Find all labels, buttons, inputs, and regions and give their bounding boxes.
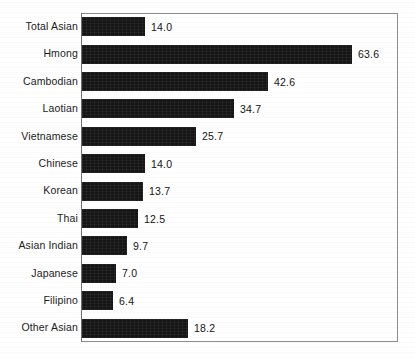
bar-wrapper: 6.4 [82, 287, 134, 314]
bar-row: Korean 13.7 [0, 177, 415, 204]
bar-value-label: 42.6 [274, 76, 295, 88]
bar-rect [82, 291, 113, 310]
bar-rect [82, 209, 138, 228]
bar-row: Thai 12.5 [0, 205, 415, 232]
bar-rect [82, 17, 145, 36]
bar-rect [82, 45, 352, 64]
bar-value-label: 14.0 [151, 158, 172, 170]
bar-value-label: 25.7 [202, 130, 223, 142]
bar-row: Other Asian 18.2 [0, 314, 415, 341]
bar-value-label: 14.0 [151, 21, 172, 33]
bar-wrapper: 9.7 [82, 232, 148, 259]
category-label: Thai [57, 205, 78, 232]
bar-rect [82, 236, 127, 255]
bar-rows: Total Asian 14.0 Hmong 63.6 Cambodian 42… [0, 13, 415, 342]
bar-wrapper: 63.6 [82, 40, 379, 67]
bar-chart: Total Asian 14.0 Hmong 63.6 Cambodian 42… [0, 0, 415, 358]
bar-rect [82, 319, 188, 338]
bar-wrapper: 14.0 [82, 13, 172, 40]
category-label: Laotian [43, 95, 79, 122]
bar-row: Asian Indian 9.7 [0, 232, 415, 259]
bar-wrapper: 25.7 [82, 123, 223, 150]
bar-row: Laotian 34.7 [0, 95, 415, 122]
category-label: Korean [43, 177, 78, 204]
bar-rect [82, 127, 196, 146]
category-label: Cambodian [23, 68, 78, 95]
bar-value-label: 34.7 [240, 103, 261, 115]
bar-value-label: 13.7 [149, 185, 170, 197]
bar-value-label: 7.0 [122, 267, 137, 279]
bar-rect [82, 99, 234, 118]
bar-wrapper: 12.5 [82, 205, 165, 232]
bar-rect [82, 72, 268, 91]
bar-row: Filipino 6.4 [0, 287, 415, 314]
bar-rect [82, 182, 143, 201]
bar-row: Japanese 7.0 [0, 260, 415, 287]
category-label: Vietnamese [21, 123, 78, 150]
bar-wrapper: 14.0 [82, 150, 172, 177]
bar-row: Chinese 14.0 [0, 150, 415, 177]
category-label: Filipino [44, 287, 78, 314]
bar-row: Vietnamese 25.7 [0, 123, 415, 150]
category-label: Hmong [43, 40, 78, 67]
bar-value-label: 63.6 [358, 48, 379, 60]
category-label: Japanese [31, 260, 78, 287]
category-label: Total Asian [26, 13, 78, 40]
bar-rect [82, 264, 116, 283]
bar-wrapper: 34.7 [82, 95, 261, 122]
bar-row: Hmong 63.6 [0, 40, 415, 67]
bar-wrapper: 7.0 [82, 260, 137, 287]
bar-rect [82, 154, 145, 173]
bar-value-label: 18.2 [194, 322, 215, 334]
bar-value-label: 6.4 [119, 295, 134, 307]
category-label: Other Asian [21, 314, 78, 341]
bar-wrapper: 42.6 [82, 68, 295, 95]
bar-wrapper: 13.7 [82, 177, 170, 204]
bar-row: Total Asian 14.0 [0, 13, 415, 40]
category-label: Asian Indian [18, 232, 78, 259]
bar-value-label: 9.7 [133, 240, 148, 252]
bar-wrapper: 18.2 [82, 314, 215, 341]
category-label: Chinese [38, 150, 78, 177]
bar-row: Cambodian 42.6 [0, 68, 415, 95]
bar-value-label: 12.5 [144, 213, 165, 225]
